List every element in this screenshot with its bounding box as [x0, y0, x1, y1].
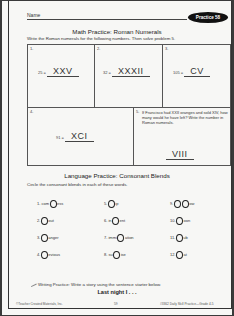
math-instructions: Write the Roman numerals for the followi…: [27, 36, 175, 41]
problem-expression: 25 = XXV: [38, 67, 79, 77]
blend-circle: [174, 200, 181, 208]
blend-circle: [176, 217, 183, 225]
blend-circle: [108, 200, 115, 208]
problem-number: 1.: [30, 46, 33, 51]
word-item: 8. suise: [104, 251, 126, 259]
math-problem-grid: 1. 25 = XXV 2. 32 = XXXII 3. 105 = CV 4.…: [27, 44, 231, 166]
blend-circle: [41, 217, 48, 225]
problem-expression: 32 = XXXII: [103, 67, 150, 77]
math-title: Math Practice: Roman Numerals: [2, 28, 232, 35]
number-text: 25 =: [38, 70, 46, 75]
name-label: Name: [27, 12, 40, 18]
blend-circle: [113, 251, 120, 259]
word-item: 9.ow: [170, 200, 194, 208]
blend-circle: [176, 251, 183, 259]
problem-expression: VIII: [166, 150, 194, 160]
problem-cell-5: 5. If Francisco had XXII oranges and sol…: [134, 108, 231, 166]
pencil-icon: [29, 280, 37, 287]
writing-instructions: Writing Practice: Write a story using th…: [30, 281, 161, 287]
problem-cell-2: 2. 32 = XXXII: [95, 45, 163, 108]
word-item: 4.evious: [37, 251, 60, 259]
problem-number: 4.: [30, 109, 33, 114]
problem-expression: 105 = CV: [173, 67, 210, 77]
name-line: [27, 19, 187, 20]
word-item: 6. inent: [104, 217, 125, 225]
worksheet-page: Name Practice 58 Math Practice: Roman Nu…: [2, 1, 232, 315]
number-text: 105 =: [173, 70, 183, 75]
problem-number: 2.: [97, 46, 100, 51]
blend-circle: [182, 200, 189, 208]
word-item: 11.ub: [170, 234, 188, 242]
word-item: 7. immiation: [104, 234, 134, 242]
footer-copyright: ©Teacher Created Materials, Inc.: [16, 302, 63, 306]
answer: XCI: [65, 132, 94, 142]
word-item: 2.out: [37, 217, 54, 225]
word-item: 1. comess: [37, 200, 63, 208]
blend-circle: [176, 234, 183, 242]
sentence-starter: Last night I . . .: [2, 289, 232, 295]
blend-circle: [112, 217, 119, 225]
footer-page-number: 59: [114, 302, 118, 306]
blend-circle: [41, 234, 48, 242]
footer-book-title: #3362 Daily Skill Practice—Grade 4-5: [160, 302, 214, 306]
practice-badge: Practice 58: [188, 12, 228, 23]
problem-number: 5.: [136, 109, 139, 114]
problem-number: 3.: [165, 46, 168, 51]
answer: XXV: [47, 67, 79, 77]
blend-circle: [50, 200, 57, 208]
answer: CV: [184, 67, 210, 77]
word-problem-text: If Francisco had XXII oranges and sold X…: [142, 110, 232, 125]
problem-expression: 91 = XCI: [56, 132, 94, 142]
problem-cell-4: 4. 91 = XCI: [28, 108, 134, 166]
word-item: 3.anger: [37, 234, 59, 242]
answer: XXXII: [112, 67, 150, 77]
language-title: Language Practice: Consonant Blends: [2, 172, 232, 179]
answer: VIII: [166, 150, 194, 160]
language-instructions: Circle the consonant blends in each of t…: [27, 182, 128, 187]
word-item: 12.at: [170, 251, 187, 259]
consonant-blend-words: 1. comess 2.out 3.anger 4.evious 5.ip 6.…: [27, 196, 227, 266]
problem-cell-3: 3. 105 = CV: [163, 45, 231, 108]
problem-cell-1: 1. 25 = XXV: [28, 45, 95, 108]
blend-circle: [117, 234, 124, 242]
number-text: 91 =: [56, 135, 64, 140]
writing-instructions-text: Writing Practice: Write a story using th…: [38, 282, 161, 287]
word-item: 5.ip: [104, 200, 118, 208]
number-text: 32 =: [103, 70, 111, 75]
blend-circle: [41, 251, 48, 259]
word-item: 10.oon: [170, 217, 190, 225]
